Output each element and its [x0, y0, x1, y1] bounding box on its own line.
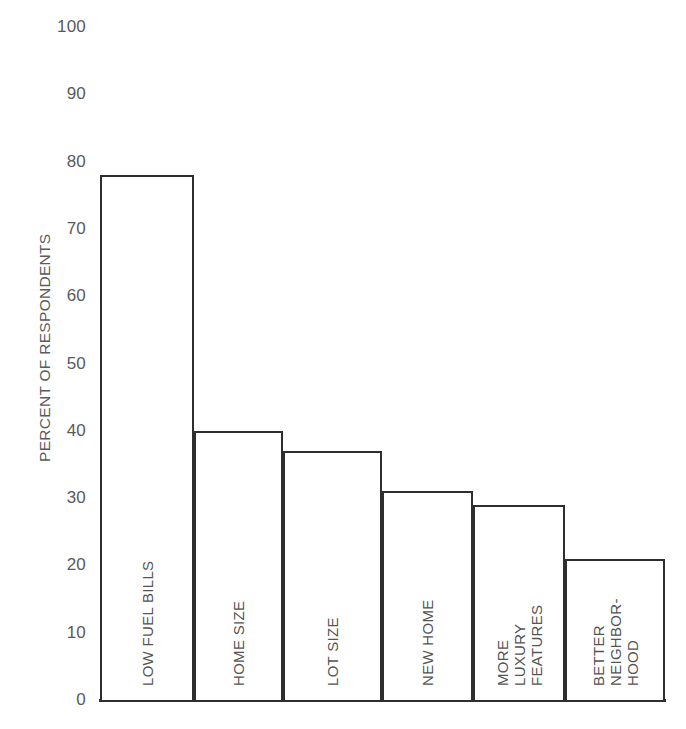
- bar-label-line: LOT SIZE: [324, 617, 341, 686]
- bar-label-line: FEATURES: [528, 605, 545, 686]
- bar-label-line: HOOD: [624, 598, 641, 686]
- bar-label-new-home: NEW HOME: [419, 599, 436, 686]
- bar-chart: PERCENT OF RESPONDENTS 10090807060504030…: [0, 0, 686, 729]
- bar-label-better-neighborhood: BETTERNEIGHBOR-HOOD: [590, 598, 641, 686]
- bar-label-line: MORE: [494, 605, 511, 686]
- bar-label-lot-size: LOT SIZE: [324, 617, 341, 686]
- bar-label-line: BETTER: [590, 598, 607, 686]
- bar-label-line: LUXURY: [511, 605, 528, 686]
- bar-label-line: LOW FUEL BILLS: [139, 561, 156, 686]
- plot-area: LOW FUEL BILLSHOME SIZELOT SIZENEW HOMEM…: [0, 0, 686, 729]
- bar-label-line: NEIGHBOR-: [607, 598, 624, 686]
- bar-label-more-luxury-features: MORELUXURYFEATURES: [494, 605, 545, 686]
- bar-label-home-size: HOME SIZE: [230, 601, 247, 686]
- bar-label-line: HOME SIZE: [230, 601, 247, 686]
- bar-label-low-fuel-bills: LOW FUEL BILLS: [139, 561, 156, 686]
- bar-label-line: NEW HOME: [419, 599, 436, 686]
